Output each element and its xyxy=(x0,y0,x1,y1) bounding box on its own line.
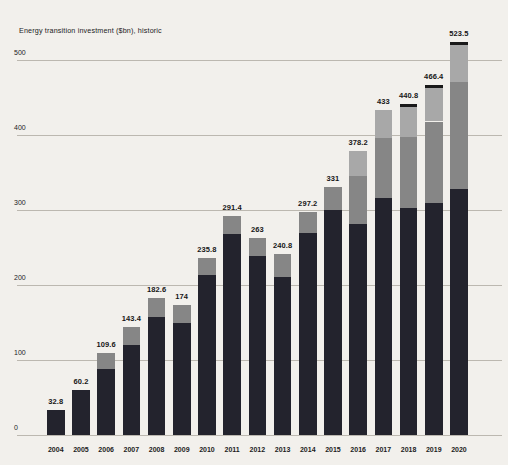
bar-value-label-2015: 331 xyxy=(311,174,355,183)
bar-2017-segment-light-gray xyxy=(375,110,393,138)
bar-2015-segment-medium-gray xyxy=(324,187,342,210)
bar-value-label-2006: 109.6 xyxy=(84,340,128,349)
bar-2019-segment-medium-gray xyxy=(425,122,443,203)
bar-value-label-2007: 143.4 xyxy=(109,314,153,323)
bar-2018-segment-medium-gray xyxy=(400,137,418,208)
bar-value-label-2005: 60.2 xyxy=(59,377,103,386)
bar-2018-segment-dark-cap xyxy=(400,104,418,106)
y-axis-tick-label: 0 xyxy=(14,424,18,431)
bar-value-label-2020: 523.5 xyxy=(437,29,481,38)
bar-value-label-2014: 297.2 xyxy=(286,199,330,208)
bar-2017-segment-dark-bottom xyxy=(375,198,393,435)
bar-2005-segment-dark-bottom xyxy=(72,390,90,435)
bar-2013-segment-medium-gray xyxy=(274,254,292,277)
bar-2008-segment-dark-bottom xyxy=(148,317,166,435)
bar-2006-segment-medium-gray xyxy=(97,353,115,370)
bar-2007-segment-medium-gray xyxy=(123,327,141,344)
bar-2016-segment-light-gray xyxy=(349,151,367,176)
bar-2020-segment-dark-cap xyxy=(450,42,468,45)
bar-2017-segment-medium-gray xyxy=(375,138,393,198)
bar-2004-segment-dark-bottom xyxy=(47,410,65,435)
chart-title: Energy transition investment ($bn), hist… xyxy=(19,26,162,35)
gridline-0 xyxy=(17,435,502,436)
bar-2008-segment-medium-gray xyxy=(148,298,166,317)
y-axis-tick-label: 200 xyxy=(14,274,26,281)
bar-2011-segment-dark-bottom xyxy=(223,234,241,435)
bar-2012-segment-dark-bottom xyxy=(249,256,267,435)
bar-2019-segment-dark-bottom xyxy=(425,203,443,436)
y-axis-tick-label: 500 xyxy=(14,49,26,56)
bar-value-label-2011: 291.4 xyxy=(210,203,254,212)
bar-2009-segment-dark-bottom xyxy=(173,323,191,436)
bar-value-label-2004: 32.8 xyxy=(34,397,78,406)
bar-value-label-2009: 174 xyxy=(160,292,204,301)
bar-2018-segment-light-gray xyxy=(400,107,418,137)
bar-value-label-2019: 466.4 xyxy=(412,72,456,81)
bar-value-label-2013: 240.8 xyxy=(261,241,305,250)
bar-2013-segment-dark-bottom xyxy=(274,277,292,435)
bar-2009-segment-medium-gray xyxy=(173,305,191,323)
bar-value-label-2018: 440.8 xyxy=(387,91,431,100)
bar-value-label-2010: 235.8 xyxy=(185,245,229,254)
bar-2016-segment-medium-gray xyxy=(349,176,367,223)
y-axis-tick-label: 100 xyxy=(14,349,26,356)
energy-investment-chart: Energy transition investment ($bn), hist… xyxy=(0,0,508,465)
bar-2014-segment-dark-bottom xyxy=(299,233,317,435)
bar-2006-segment-dark-bottom xyxy=(97,369,115,435)
x-axis-tick-label-2020: 2020 xyxy=(444,446,474,453)
gridline-500 xyxy=(17,60,502,61)
bar-2020-segment-light-gray xyxy=(450,45,468,82)
bar-2016-segment-dark-bottom xyxy=(349,224,367,436)
bar-2019-segment-dark-cap xyxy=(425,85,443,88)
bar-2019-segment-light-gray xyxy=(425,88,443,121)
bar-2015-segment-dark-bottom xyxy=(324,210,342,435)
bar-2007-segment-dark-bottom xyxy=(123,345,141,435)
y-axis-tick-label: 400 xyxy=(14,124,26,131)
bar-2014-segment-medium-gray xyxy=(299,212,317,233)
bar-2020-segment-dark-bottom xyxy=(450,189,468,435)
bar-2020-segment-medium-gray xyxy=(450,82,468,189)
bar-value-label-2016: 378.2 xyxy=(336,138,380,147)
bar-2010-segment-medium-gray xyxy=(198,258,216,275)
y-axis-tick-label: 300 xyxy=(14,199,26,206)
bar-2018-segment-dark-bottom xyxy=(400,208,418,435)
bar-value-label-2012: 263 xyxy=(235,225,279,234)
bar-2010-segment-dark-bottom xyxy=(198,275,216,435)
